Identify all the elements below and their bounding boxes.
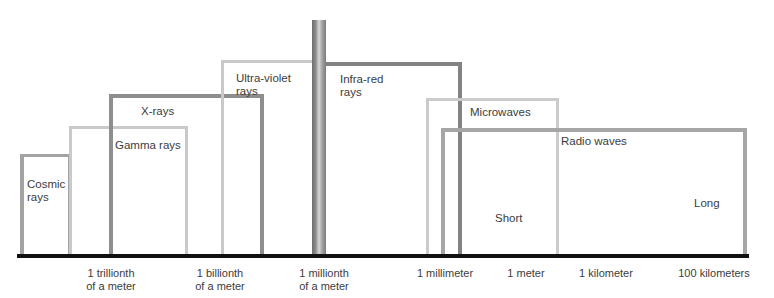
label-cosmic-rays: Cosmic rays bbox=[27, 178, 65, 204]
tick-1-millionth: 1 millionth of a meter bbox=[284, 267, 364, 293]
label-radio-long: Long bbox=[694, 197, 720, 210]
label-line: Infra-red bbox=[340, 73, 383, 86]
label-line: Short bbox=[495, 212, 523, 225]
label-x-rays: X-rays bbox=[141, 105, 174, 118]
label-line: Cosmic bbox=[27, 178, 65, 191]
label-microwaves: Microwaves bbox=[470, 106, 531, 119]
label-line: X-rays bbox=[141, 105, 174, 118]
label-radio-waves: Radio waves bbox=[561, 135, 627, 148]
label-line: Microwaves bbox=[470, 106, 531, 119]
visible-light-band bbox=[312, 20, 326, 256]
label-line: rays bbox=[27, 191, 65, 204]
tick-line: 1 meter bbox=[496, 267, 556, 280]
tick-line: of a meter bbox=[180, 280, 260, 293]
tick-1-meter: 1 meter bbox=[496, 267, 556, 280]
tick-100-kilometers: 100 kilometers bbox=[664, 267, 764, 280]
tick-1-billionth: 1 billionth of a meter bbox=[180, 267, 260, 293]
label-line: Radio waves bbox=[561, 135, 627, 148]
tick-line: 1 millionth bbox=[284, 267, 364, 280]
label-radio-short: Short bbox=[495, 212, 523, 225]
tick-line: 1 millimeter bbox=[405, 267, 485, 280]
tick-line: 1 billionth bbox=[180, 267, 260, 280]
label-line: Gamma rays bbox=[115, 139, 181, 152]
tick-line: of a meter bbox=[284, 280, 364, 293]
label-line: rays bbox=[340, 86, 383, 99]
band-cosmic-rays bbox=[20, 154, 72, 256]
label-line: rays bbox=[236, 85, 291, 98]
tick-1-trillionth: 1 trillionth of a meter bbox=[71, 267, 151, 293]
label-infra-red: Infra-red rays bbox=[340, 73, 383, 99]
tick-line: 1 trillionth bbox=[71, 267, 151, 280]
wavelength-axis bbox=[17, 254, 749, 258]
label-line: Ultra-violet bbox=[236, 72, 291, 85]
tick-1-millimeter: 1 millimeter bbox=[405, 267, 485, 280]
tick-1-kilometer: 1 kilometer bbox=[566, 267, 646, 280]
label-ultra-violet: Ultra-violet rays bbox=[236, 72, 291, 98]
tick-line: of a meter bbox=[71, 280, 151, 293]
label-gamma-rays: Gamma rays bbox=[115, 139, 181, 152]
tick-line: 1 kilometer bbox=[566, 267, 646, 280]
label-line: Long bbox=[694, 197, 720, 210]
tick-line: 100 kilometers bbox=[664, 267, 764, 280]
